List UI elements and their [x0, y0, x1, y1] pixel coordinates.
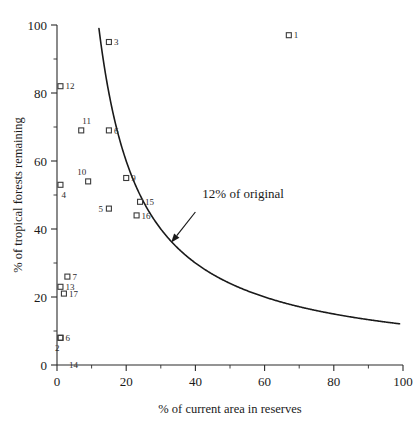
y-tick-label: 80: [34, 86, 47, 101]
y-tick-label: 0: [41, 358, 48, 373]
data-point: 14: [69, 360, 79, 370]
annotation-label: 12% of original: [202, 186, 284, 201]
point-marker: [286, 33, 291, 38]
point-marker: [106, 206, 111, 211]
point-marker: [58, 182, 63, 187]
point-label: 16: [142, 211, 152, 221]
data-point: 4: [58, 182, 67, 200]
annotation-arrow-line: [177, 212, 196, 236]
data-point: 9: [124, 173, 137, 183]
data-point: 3: [106, 37, 119, 47]
data-point: 15: [138, 197, 155, 207]
x-tick-label: 0: [54, 374, 61, 389]
point-marker: [65, 274, 70, 279]
data-point: 17: [61, 289, 78, 299]
x-tick-label: 60: [258, 374, 271, 389]
annotation-arrow-head: [171, 233, 179, 242]
y-tick-label: 60: [34, 154, 47, 169]
plot-area: 020406080100020406080100 131211610491516…: [0, 0, 416, 435]
x-axis-title: % of current area in reserves: [158, 402, 301, 416]
point-label: 17: [69, 289, 79, 299]
data-point: 10: [77, 167, 91, 184]
point-label: 6: [114, 126, 119, 136]
data-point: 7: [65, 272, 78, 282]
twelve-percent-curve: [99, 29, 400, 324]
data-point: 2: [55, 335, 63, 353]
data-point: 5: [98, 204, 111, 214]
point-label: 11: [82, 116, 91, 126]
data-point: 6: [106, 126, 119, 136]
reference-curve: [99, 29, 400, 324]
point-label: 7: [72, 272, 77, 282]
point-marker: [124, 176, 129, 181]
point-label: 15: [145, 197, 155, 207]
point-label: 1: [294, 30, 299, 40]
y-tick-label: 100: [28, 18, 48, 33]
y-tick-label: 40: [34, 222, 47, 237]
axis-tick-labels: 020406080100020406080100: [28, 18, 413, 390]
point-marker: [58, 335, 63, 340]
y-axis-title: % of tropical forests remaining: [11, 117, 25, 273]
x-tick-label: 100: [393, 374, 413, 389]
data-point: 16: [134, 211, 151, 221]
point-label: 14: [69, 360, 79, 370]
point-label: 3: [114, 37, 119, 47]
point-marker: [106, 40, 111, 45]
point-label: 4: [61, 190, 66, 200]
curve-annotation: 12% of original: [171, 186, 284, 242]
point-label: 10: [77, 167, 87, 177]
point-marker: [79, 128, 84, 133]
point-marker: [106, 128, 111, 133]
point-marker: [134, 213, 139, 218]
x-tick-label: 40: [189, 374, 202, 389]
data-point: 11: [79, 116, 91, 132]
data-point: 12: [58, 81, 75, 91]
point-marker: [58, 84, 63, 89]
point-label: 5: [98, 204, 103, 214]
point-marker: [86, 179, 91, 184]
data-point: 6: [58, 333, 71, 343]
point-marker: [58, 284, 63, 289]
point-label: 12: [65, 81, 74, 91]
point-label: 2: [55, 343, 60, 353]
point-label: 9: [131, 173, 136, 183]
point-marker: [58, 335, 63, 340]
x-tick-label: 20: [120, 374, 133, 389]
point-label: 6: [65, 333, 70, 343]
y-tick-label: 20: [34, 290, 47, 305]
scatter-chart-figure: 020406080100020406080100 131211610491516…: [0, 0, 416, 435]
x-tick-label: 80: [327, 374, 340, 389]
data-point: 1: [286, 30, 298, 40]
